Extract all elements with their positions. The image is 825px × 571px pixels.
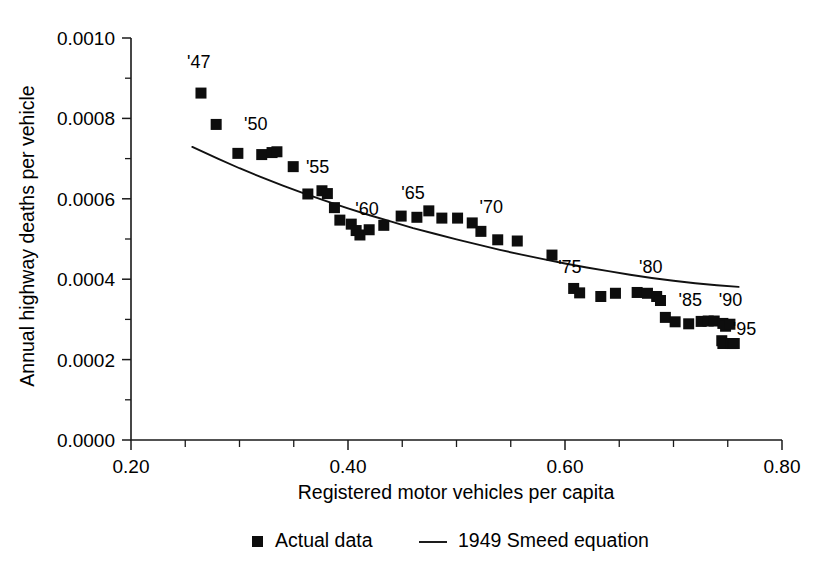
data-point-marker — [729, 338, 740, 349]
year-annotation-label: '65 — [401, 183, 424, 203]
year-annotation-label: '50 — [244, 114, 267, 134]
x-axis-tick-label: 0.80 — [764, 456, 801, 477]
y-axis-tick-label: 0.0010 — [57, 28, 115, 49]
year-annotation-label: '75 — [558, 257, 581, 277]
data-point-marker — [475, 226, 486, 237]
data-point-marker — [256, 149, 267, 160]
y-axis-tick-label: 0.0002 — [57, 350, 115, 371]
year-annotation-label: '60 — [355, 199, 378, 219]
chart-legend: Actual data 1949 Smeed equation — [252, 529, 649, 551]
year-annotation-label: '90 — [719, 290, 742, 310]
data-point-marker — [302, 188, 313, 199]
data-point-markers — [195, 88, 739, 349]
data-point-marker — [334, 215, 345, 226]
data-point-marker — [288, 161, 299, 172]
data-point-marker — [610, 288, 621, 299]
data-point-marker — [423, 205, 434, 216]
year-annotation-label: '47 — [187, 52, 210, 72]
year-annotation-label: '80 — [639, 257, 662, 277]
data-point-marker — [632, 287, 643, 298]
x-axis-tick-label: 0.40 — [330, 456, 367, 477]
x-axis-tick-label: 0.20 — [113, 456, 150, 477]
x-axis-tick-labels: 0.200.400.600.80 — [113, 456, 801, 477]
data-point-marker — [574, 287, 585, 298]
data-point-marker — [211, 119, 222, 130]
year-annotation-label: '95 — [733, 319, 756, 339]
year-annotation-label: '70 — [479, 197, 502, 217]
data-point-marker — [546, 250, 557, 261]
y-axis-tick-label: 0.0006 — [57, 189, 115, 210]
data-point-marker — [655, 295, 666, 306]
y-axis-tick-label: 0.0008 — [57, 108, 115, 129]
year-annotation-label: '85 — [679, 290, 702, 310]
x-axis-tick-label: 0.60 — [547, 456, 584, 477]
data-point-marker — [195, 88, 206, 99]
legend-marker-actual-data — [252, 536, 263, 547]
data-point-marker — [436, 213, 447, 224]
data-point-marker — [271, 146, 282, 157]
scatter-plot-svg: 0.00000.00020.00040.00060.00080.0010 0.2… — [0, 0, 825, 571]
legend-label-actual-data: Actual data — [275, 529, 373, 551]
data-point-marker — [492, 234, 503, 245]
data-point-marker — [378, 220, 389, 231]
data-point-marker — [512, 236, 523, 247]
data-point-marker — [660, 312, 671, 323]
year-annotations: '47'50'55'60'65'70'75'80'85'90'95 — [187, 52, 756, 339]
axes — [122, 38, 782, 450]
data-point-marker — [595, 291, 606, 302]
year-annotation-label: '55 — [306, 157, 329, 177]
data-point-marker — [232, 148, 243, 159]
data-point-marker — [683, 318, 694, 329]
x-axis-title: Registered motor vehicles per capita — [298, 481, 615, 503]
y-axis-tick-labels: 0.00000.00020.00040.00060.00080.0010 — [57, 28, 116, 451]
chart-figure: 0.00000.00020.00040.00060.00080.0010 0.2… — [0, 0, 825, 571]
y-axis-tick-label: 0.0004 — [57, 269, 116, 290]
y-axis-title: Annual highway deaths per vehicle — [16, 85, 38, 386]
data-point-marker — [411, 212, 422, 223]
data-point-marker — [670, 316, 681, 327]
data-point-marker — [452, 213, 463, 224]
data-point-marker — [364, 224, 375, 235]
y-axis-tick-label: 0.0000 — [57, 430, 115, 451]
data-point-marker — [322, 188, 333, 199]
data-point-marker — [329, 202, 340, 213]
data-point-marker — [396, 211, 407, 222]
legend-label-smeed-equation: 1949 Smeed equation — [458, 529, 649, 551]
